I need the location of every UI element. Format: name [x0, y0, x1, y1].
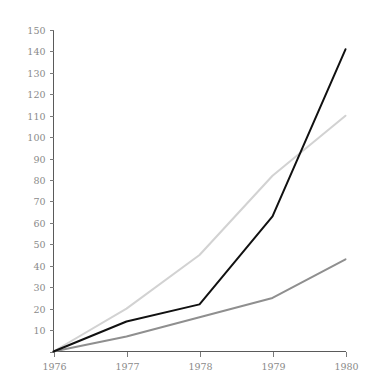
y-tick-marks — [50, 31, 54, 353]
y-tick-label: 30 — [33, 282, 45, 293]
y-tick-label: 90 — [33, 154, 45, 165]
y-tick-label: 110 — [27, 111, 45, 122]
y-tick-label: 40 — [33, 261, 45, 272]
x-tick-label: 1979 — [261, 361, 285, 372]
y-tick-labels: 102030405060708090100110120130140150 — [27, 25, 45, 336]
data-series-group — [54, 49, 346, 351]
y-tick-label: 80 — [33, 175, 45, 186]
x-tick-label: 1976 — [42, 361, 66, 372]
y-tick-label: 120 — [27, 89, 45, 100]
y-tick-label: 10 — [33, 325, 45, 336]
y-tick-label: 20 — [33, 304, 45, 315]
y-tick-label: 60 — [33, 218, 45, 229]
line-chart: 102030405060708090100110120130140150 197… — [0, 0, 372, 385]
x-tick-label: 1977 — [115, 361, 139, 372]
chart-canvas: 102030405060708090100110120130140150 197… — [0, 0, 372, 385]
x-axis-group: 19761977197819791980 — [42, 352, 358, 372]
x-tick-marks — [55, 352, 347, 357]
y-tick-label: 140 — [27, 46, 45, 57]
y-tick-label: 130 — [27, 68, 45, 79]
y-tick-label: 50 — [33, 239, 45, 250]
y-tick-label: 70 — [33, 196, 45, 207]
x-tick-label: 1978 — [188, 361, 212, 372]
y-axis-group: 102030405060708090100110120130140150 — [27, 25, 53, 353]
series-series-medium-gray — [54, 259, 346, 351]
y-tick-label: 150 — [27, 25, 45, 36]
x-tick-label: 1980 — [334, 361, 358, 372]
y-tick-label: 100 — [27, 132, 45, 143]
x-tick-labels: 19761977197819791980 — [42, 361, 358, 372]
series-series-black — [54, 49, 346, 351]
